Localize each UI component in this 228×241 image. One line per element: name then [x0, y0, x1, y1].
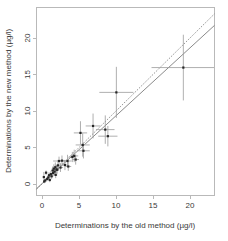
data-point [75, 158, 77, 160]
data-point [107, 135, 109, 137]
y-tick-label: 0 [23, 181, 32, 186]
data-point [66, 160, 68, 162]
scatter-plot-figure: 05101520 05101520 Determinations by the … [0, 0, 228, 241]
data-point [92, 125, 94, 127]
data-point [61, 160, 63, 162]
plot-canvas: 05101520 05101520 Determinations by the … [0, 0, 228, 241]
y-tick-label: 10 [23, 106, 32, 115]
x-axis-tick-labels: 05101520 [40, 201, 195, 210]
y-tick-label: 20 [23, 33, 32, 42]
data-point [115, 91, 117, 93]
x-axis-title: Determinations by the old method (µg/l) [55, 221, 196, 230]
x-tick-label: 5 [77, 201, 82, 210]
data-point [79, 132, 81, 134]
data-point [45, 172, 47, 174]
fitted-regression-line [37, 25, 215, 188]
x-tick-label: 20 [186, 201, 195, 210]
x-tick-label: 10 [112, 201, 121, 210]
y-axis-ticks [33, 38, 37, 184]
x-axis-ticks [42, 196, 190, 200]
data-point [50, 173, 52, 175]
data-point [51, 175, 53, 177]
data-point [58, 160, 60, 162]
data-point [182, 66, 184, 68]
data-point [82, 150, 84, 152]
y-tick-label: 15 [23, 70, 32, 79]
data-point [56, 169, 58, 171]
data-point [104, 129, 106, 131]
data-point [54, 166, 56, 168]
data-point [67, 165, 69, 167]
plot-frame [37, 8, 215, 196]
data-point [53, 170, 55, 172]
data-point [59, 166, 61, 168]
data-point [49, 179, 51, 181]
data-point [57, 164, 59, 166]
data-point [82, 144, 84, 146]
data-point [47, 176, 49, 178]
data-point [64, 164, 66, 166]
data-point [55, 174, 57, 176]
identity-line [37, 14, 215, 190]
data-point-group [43, 66, 185, 182]
y-axis-title: Determinations by the new method (µg/l) [4, 29, 13, 174]
y-axis-tick-labels: 05101520 [23, 33, 32, 186]
x-tick-label: 15 [149, 201, 158, 210]
data-point [73, 155, 75, 157]
data-point [43, 176, 45, 178]
reference-lines [37, 14, 215, 190]
x-tick-label: 0 [40, 201, 45, 210]
y-tick-label: 5 [23, 145, 32, 150]
